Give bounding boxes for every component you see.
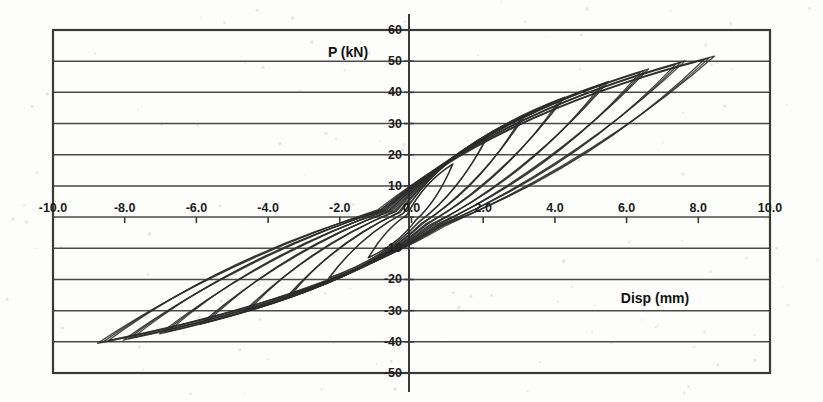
x-tick-label: 6.0	[618, 201, 635, 215]
y-tick-label: 50	[388, 54, 402, 68]
x-tick-label: 2.0	[475, 201, 492, 215]
y-tick-label: 20	[388, 148, 402, 162]
y-axis-title: P (kN)	[328, 44, 368, 60]
y-tick-label: 40	[388, 85, 402, 99]
plot-canvas: -10.0-8.0-6.0-4.0-2.00.02.04.06.08.010.0…	[0, 0, 823, 402]
x-tick-label: -6.0	[186, 201, 208, 215]
y-tick-label: -10	[384, 241, 402, 255]
y-tick-label: -20	[384, 272, 402, 286]
x-tick-label: 10.0	[758, 201, 782, 215]
x-axis-title: Disp (mm)	[621, 290, 689, 306]
hysteresis-chart: -10.0-8.0-6.0-4.0-2.00.02.04.06.08.010.0…	[0, 0, 823, 402]
x-tick-label: -8.0	[114, 201, 136, 215]
x-tick-label: 4.0	[546, 201, 563, 215]
x-tick-label: 8.0	[690, 201, 707, 215]
x-tick-label: -2.0	[329, 201, 351, 215]
x-tick-label: -4.0	[257, 201, 279, 215]
x-tick-label: 0.0	[403, 201, 420, 215]
y-tick-label: -30	[384, 304, 402, 318]
y-tick-label: 30	[388, 117, 402, 131]
y-tick-label: -50	[384, 366, 402, 380]
y-tick-label: 60	[388, 23, 402, 37]
y-tick-label: 10	[388, 179, 402, 193]
x-tick-label: -10.0	[39, 201, 68, 215]
y-tick-label: -40	[384, 335, 402, 349]
